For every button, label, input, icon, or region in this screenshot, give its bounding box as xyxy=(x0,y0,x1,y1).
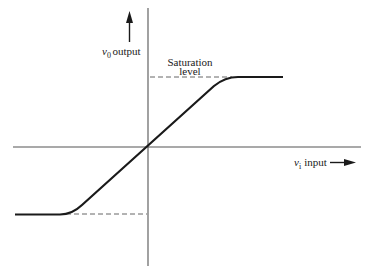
x-axis-text: input xyxy=(304,156,327,168)
transfer-curve xyxy=(15,77,283,215)
x-axis-label: viinput xyxy=(294,156,327,171)
amplifier-transfer-characteristic: v0output Saturation level viinput xyxy=(0,0,371,277)
y-axis-text: output xyxy=(112,45,140,57)
saturation-label-line2: level xyxy=(179,65,200,77)
right-arrow-icon xyxy=(344,159,356,166)
up-arrow-icon xyxy=(126,11,133,23)
x-axis-subscript: i xyxy=(299,162,302,171)
y-axis-label: v0output xyxy=(102,45,141,60)
y-axis-subscript: 0 xyxy=(107,51,111,60)
